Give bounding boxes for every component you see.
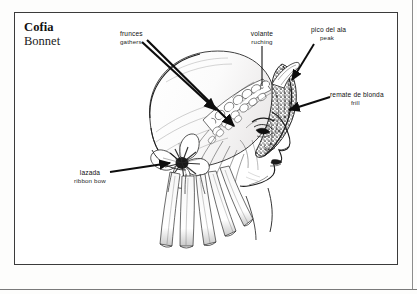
plate-page: Cofia Bonnet — [0, 0, 417, 294]
callout-ribbon-bow-english: ribbon bow — [62, 177, 118, 184]
callout-ribbon-bow-spanish: lazada — [62, 169, 118, 177]
callout-ruching-english: ruching — [240, 38, 284, 45]
callout-ribbon-bow: lazada ribbon bow — [62, 169, 118, 184]
page-title: Cofia Bonnet — [24, 20, 60, 48]
callout-frill-english: frill — [330, 99, 384, 106]
callout-ruching-spanish: volante — [240, 30, 284, 38]
callout-peak-english: peak — [311, 34, 346, 41]
callout-gathers-english: gathers — [120, 38, 143, 45]
title-english: Bonnet — [24, 34, 60, 48]
callout-gathers: frunces gathers — [120, 30, 143, 45]
title-spanish: Cofia — [24, 20, 60, 34]
callout-peak: pico del ala peak — [311, 26, 346, 41]
plate-frame — [14, 12, 398, 265]
callout-frill-spanish: remate de blonda — [330, 91, 384, 99]
callout-frill: remate de blonda frill — [330, 91, 384, 106]
page-edge-rule-right — [412, 0, 413, 290]
page-edge-rule-bottom — [0, 289, 417, 290]
callout-ruching: volante ruching — [240, 30, 284, 45]
callout-gathers-spanish: frunces — [120, 30, 143, 38]
callout-peak-spanish: pico del ala — [311, 26, 346, 34]
